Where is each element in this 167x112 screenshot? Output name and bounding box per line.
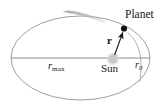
r-max-label: rmax — [48, 61, 65, 73]
sun-label: Sun — [101, 63, 118, 74]
radius-vector-label: r — [107, 35, 112, 46]
radius-vector-arrow — [115, 32, 123, 55]
orbit-diagram: Planet Sun r rmax r0 — [0, 0, 167, 112]
planet-marker-icon — [121, 25, 127, 31]
perihelion-arc — [128, 33, 142, 83]
r-max-subscript: max — [52, 65, 65, 73]
orbit-direction-arrow-icon — [63, 10, 107, 23]
r-zero-subscript: 0 — [139, 64, 142, 71]
planet-label: Planet — [125, 9, 154, 21]
r-zero-label: r0 — [135, 60, 142, 72]
